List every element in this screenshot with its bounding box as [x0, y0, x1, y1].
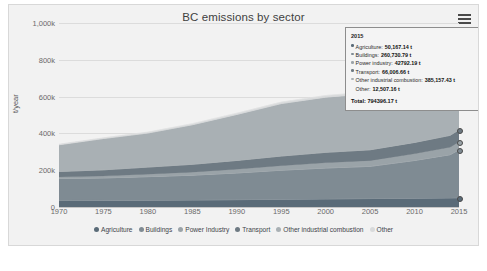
- tooltip-series-dot-icon: [351, 61, 354, 64]
- legend-item-label: Other industrial combustion: [283, 226, 363, 233]
- tooltip-series-name: Other industrial combustion:: [356, 76, 423, 84]
- legend-marker-icon: [178, 227, 183, 232]
- series-point-marker: [457, 140, 463, 146]
- x-axis-line: [59, 207, 459, 208]
- tooltip-header: 2015: [351, 32, 476, 41]
- x-axis-tick-label: 1985: [184, 207, 201, 216]
- x-axis-tick-label: 2005: [362, 207, 379, 216]
- series-point-marker: [457, 196, 463, 202]
- tooltip-row: Buildings:260,730.79 t: [351, 51, 476, 59]
- legend-item-power-industry[interactable]: Power Industry: [178, 226, 229, 233]
- tooltip-rows: Agriculture:50,167.14 tBuildings:260,730…: [351, 43, 476, 93]
- tooltip-row: Transport:66,006.66 t: [351, 68, 476, 76]
- legend-item-label: Agriculture: [101, 226, 133, 233]
- series-point-marker: [457, 148, 463, 154]
- legend-item-other[interactable]: Other: [370, 226, 394, 233]
- tooltip-row: Power industry:42792.19 t: [351, 59, 476, 67]
- legend-marker-icon: [370, 227, 375, 232]
- tooltip-series-value: 50,167.14 t: [385, 43, 412, 51]
- tooltip-row: Other:12,507.16 t: [351, 85, 476, 93]
- legend-item-label: Transport: [242, 226, 270, 233]
- legend-item-other-industrial-combustion[interactable]: Other industrial combustion: [276, 226, 363, 233]
- legend-item-transport[interactable]: Transport: [235, 226, 270, 233]
- x-axis-tick-label: 1975: [95, 207, 112, 216]
- tooltip-total-label: Total:: [351, 98, 366, 104]
- chart-card: BC emissions by sector t/year 0200k400k6…: [8, 4, 479, 246]
- tooltip-series-value: 385,157.43 t: [425, 76, 455, 84]
- legend-item-buildings[interactable]: Buildings: [139, 226, 173, 233]
- tooltip-total-value: 794396.17 t: [367, 98, 397, 104]
- legend-item-label: Power Industry: [185, 226, 229, 233]
- series-point-marker: [457, 128, 463, 134]
- tooltip-series-name: Other:: [356, 85, 371, 93]
- y-axis-tick-label: 1,000k: [17, 19, 55, 28]
- legend-marker-icon: [94, 227, 99, 232]
- tooltip-series-value: 260,730.79 t: [381, 51, 411, 59]
- x-axis-tick-label: 1970: [51, 207, 68, 216]
- tooltip-series-dot-icon: [351, 78, 354, 81]
- x-axis-tick-label: 2010: [406, 207, 423, 216]
- tooltip-series-dot-icon: [351, 44, 354, 47]
- y-axis-tick-label: 200k: [17, 166, 55, 175]
- legend-marker-icon: [276, 227, 281, 232]
- y-axis-tick-label: 0: [17, 203, 55, 212]
- tooltip-row: Agriculture:50,167.14 t: [351, 43, 476, 51]
- legend-marker-icon: [235, 227, 240, 232]
- y-axis-tick-label: 400k: [17, 129, 55, 138]
- x-axis-tick-label: 1995: [273, 207, 290, 216]
- x-axis-tick-label: 2000: [317, 207, 334, 216]
- tooltip-total: Total: 794396.17 t: [351, 97, 476, 106]
- tooltip-series-dot-icon: [351, 69, 354, 72]
- tooltip-series-value: 66,006.66 t: [382, 68, 409, 76]
- x-axis-tick-label: 1980: [140, 207, 157, 216]
- tooltip-series-name: Buildings:: [356, 51, 379, 59]
- tooltip-series-name: Transport:: [356, 68, 380, 76]
- tooltip-series-value: 42792.19 t: [395, 59, 421, 67]
- series-tooltip: 2015 Agriculture:50,167.14 tBuildings:26…: [345, 27, 479, 111]
- tooltip-series-name: Agriculture:: [356, 43, 383, 51]
- tooltip-series-value: 12,507.16 t: [373, 85, 400, 93]
- legend-marker-icon: [139, 227, 144, 232]
- chart-legend: AgricultureBuildingsPower IndustryTransp…: [9, 226, 478, 233]
- tooltip-series-dot-icon: [351, 53, 354, 56]
- tooltip-row: Other industrial combustion:385,157.43 t: [351, 76, 476, 84]
- y-axis-tick-label: 600k: [17, 92, 55, 101]
- y-axis-tick-label: 800k: [17, 55, 55, 64]
- legend-item-label: Buildings: [146, 226, 173, 233]
- tooltip-series-name: Power industry:: [356, 59, 393, 67]
- x-axis-tick-label: 2015: [451, 207, 468, 216]
- legend-item-label: Other: [377, 226, 394, 233]
- legend-item-agriculture[interactable]: Agriculture: [94, 226, 133, 233]
- x-axis-tick-label: 1990: [228, 207, 245, 216]
